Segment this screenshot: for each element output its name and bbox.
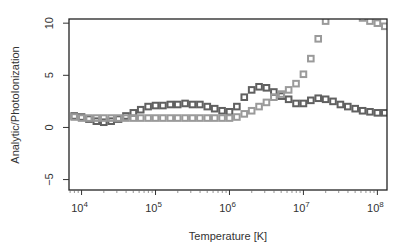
data-point-light [197, 115, 203, 121]
data-point-dark [256, 84, 262, 90]
data-point-light [190, 115, 196, 121]
data-point-dark [293, 101, 299, 107]
data-point-light [256, 104, 262, 110]
data-point-dark [138, 107, 144, 113]
y-tick-label: 10 [43, 17, 55, 29]
data-point-light [271, 94, 277, 100]
data-point-light [131, 115, 137, 121]
data-point-light [204, 115, 210, 121]
x-tick-label: 106 [219, 200, 236, 214]
data-point-light [227, 115, 233, 121]
x-tick-label: 105 [145, 200, 162, 214]
data-point-light [79, 115, 85, 121]
data-point-light [86, 115, 92, 121]
data-point-light [168, 115, 174, 121]
data-point-dark [367, 109, 373, 115]
data-point-light [145, 115, 151, 121]
data-point-light [264, 100, 270, 106]
data-point-dark [330, 99, 336, 105]
y-tick-label: 5 [43, 72, 55, 78]
x-axis: 104105106107108 [70, 190, 384, 214]
x-tick-label: 107 [293, 200, 310, 214]
data-point-dark [315, 95, 321, 101]
data-point-dark [308, 98, 314, 104]
data-point-dark [264, 85, 270, 91]
data-point-dark [219, 108, 225, 114]
data-point-light [249, 108, 255, 114]
data-point-dark [153, 103, 159, 109]
data-point-dark [249, 87, 255, 93]
data-point-light [338, 0, 344, 5]
data-point-light [286, 87, 292, 93]
data-point-dark [197, 102, 203, 108]
data-point-light [360, 15, 366, 21]
data-point-dark [190, 102, 196, 108]
data-point-light [315, 36, 321, 42]
data-point-light [116, 115, 122, 121]
data-point-light [293, 81, 299, 87]
data-point-light [153, 115, 159, 121]
data-point-light [241, 111, 247, 117]
x-tick-label: 104 [71, 200, 88, 214]
plot-frame [69, 19, 387, 190]
data-point-dark [301, 101, 307, 107]
data-point-light [375, 20, 381, 26]
data-point-dark [160, 103, 166, 109]
data-point-light [160, 115, 166, 121]
data-point-dark [323, 96, 329, 102]
data-point-light [101, 115, 107, 121]
data-point-dark [182, 101, 188, 107]
data-point-dark [234, 104, 240, 110]
y-axis-title: Analytic/PhotoIonization [9, 46, 21, 163]
data-point-dark [345, 104, 351, 110]
data-point-dark [168, 102, 174, 108]
data-point-light [175, 115, 181, 121]
data-point-light [234, 114, 240, 120]
data-point-dark [375, 110, 381, 116]
scatter-chart: 104105106107108 −50510 Temperature [K] A… [0, 0, 407, 250]
y-tick-label: −5 [43, 173, 55, 186]
data-point-light [138, 115, 144, 121]
y-tick-label: 0 [43, 124, 55, 130]
data-point-light [212, 115, 218, 121]
data-point-dark [338, 102, 344, 108]
data-point-dark [241, 94, 247, 100]
data-point-light [182, 115, 188, 121]
x-tick-label: 108 [367, 200, 384, 214]
data-point-dark [227, 109, 233, 115]
y-axis: −50510 [43, 17, 69, 186]
data-point-dark [360, 108, 366, 114]
data-point-dark [175, 102, 181, 108]
data-point-light [345, 0, 351, 5]
data-point-light [219, 115, 225, 121]
data-point-dark [204, 104, 210, 110]
data-point-light [308, 56, 314, 62]
data-point-light [71, 114, 77, 120]
x-axis-title: Temperature [K] [189, 230, 267, 242]
data-point-dark [212, 106, 218, 112]
data-point-light [352, 10, 358, 16]
data-point-dark [145, 104, 151, 110]
data-point-light [301, 71, 307, 77]
data-point-light [330, 5, 336, 11]
data-point-dark [286, 96, 292, 102]
data-point-dark [352, 106, 358, 112]
